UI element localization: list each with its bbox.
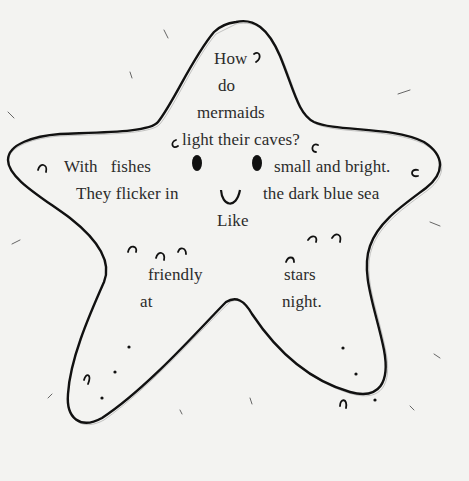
left-eye — [192, 155, 202, 171]
right-eye — [252, 155, 262, 171]
starfish-illustration — [0, 0, 469, 481]
poem-line-the-dark-blue-sea: the dark blue sea — [263, 184, 379, 204]
poem-line-with-fishes: With fishes — [64, 157, 151, 177]
poem-line-friendly: friendly — [148, 265, 203, 285]
spots — [100, 345, 376, 401]
poem-line-do: do — [218, 76, 235, 96]
poem-line-mermaids: mermaids — [197, 103, 265, 123]
poem-line-they-flicker-in: They flicker in — [76, 184, 179, 204]
poem-line-stars: stars — [284, 265, 316, 285]
poem-line-small-and-bright: small and bright. — [274, 157, 390, 177]
poem-line-like: Like — [217, 211, 249, 231]
poem-line-at: at — [140, 292, 152, 312]
poem-line-how: How — [214, 49, 247, 69]
poem-line-light-their-caves: light their caves? — [182, 130, 300, 150]
smile-mouth — [221, 190, 240, 204]
poem-line-night: night. — [282, 292, 322, 312]
